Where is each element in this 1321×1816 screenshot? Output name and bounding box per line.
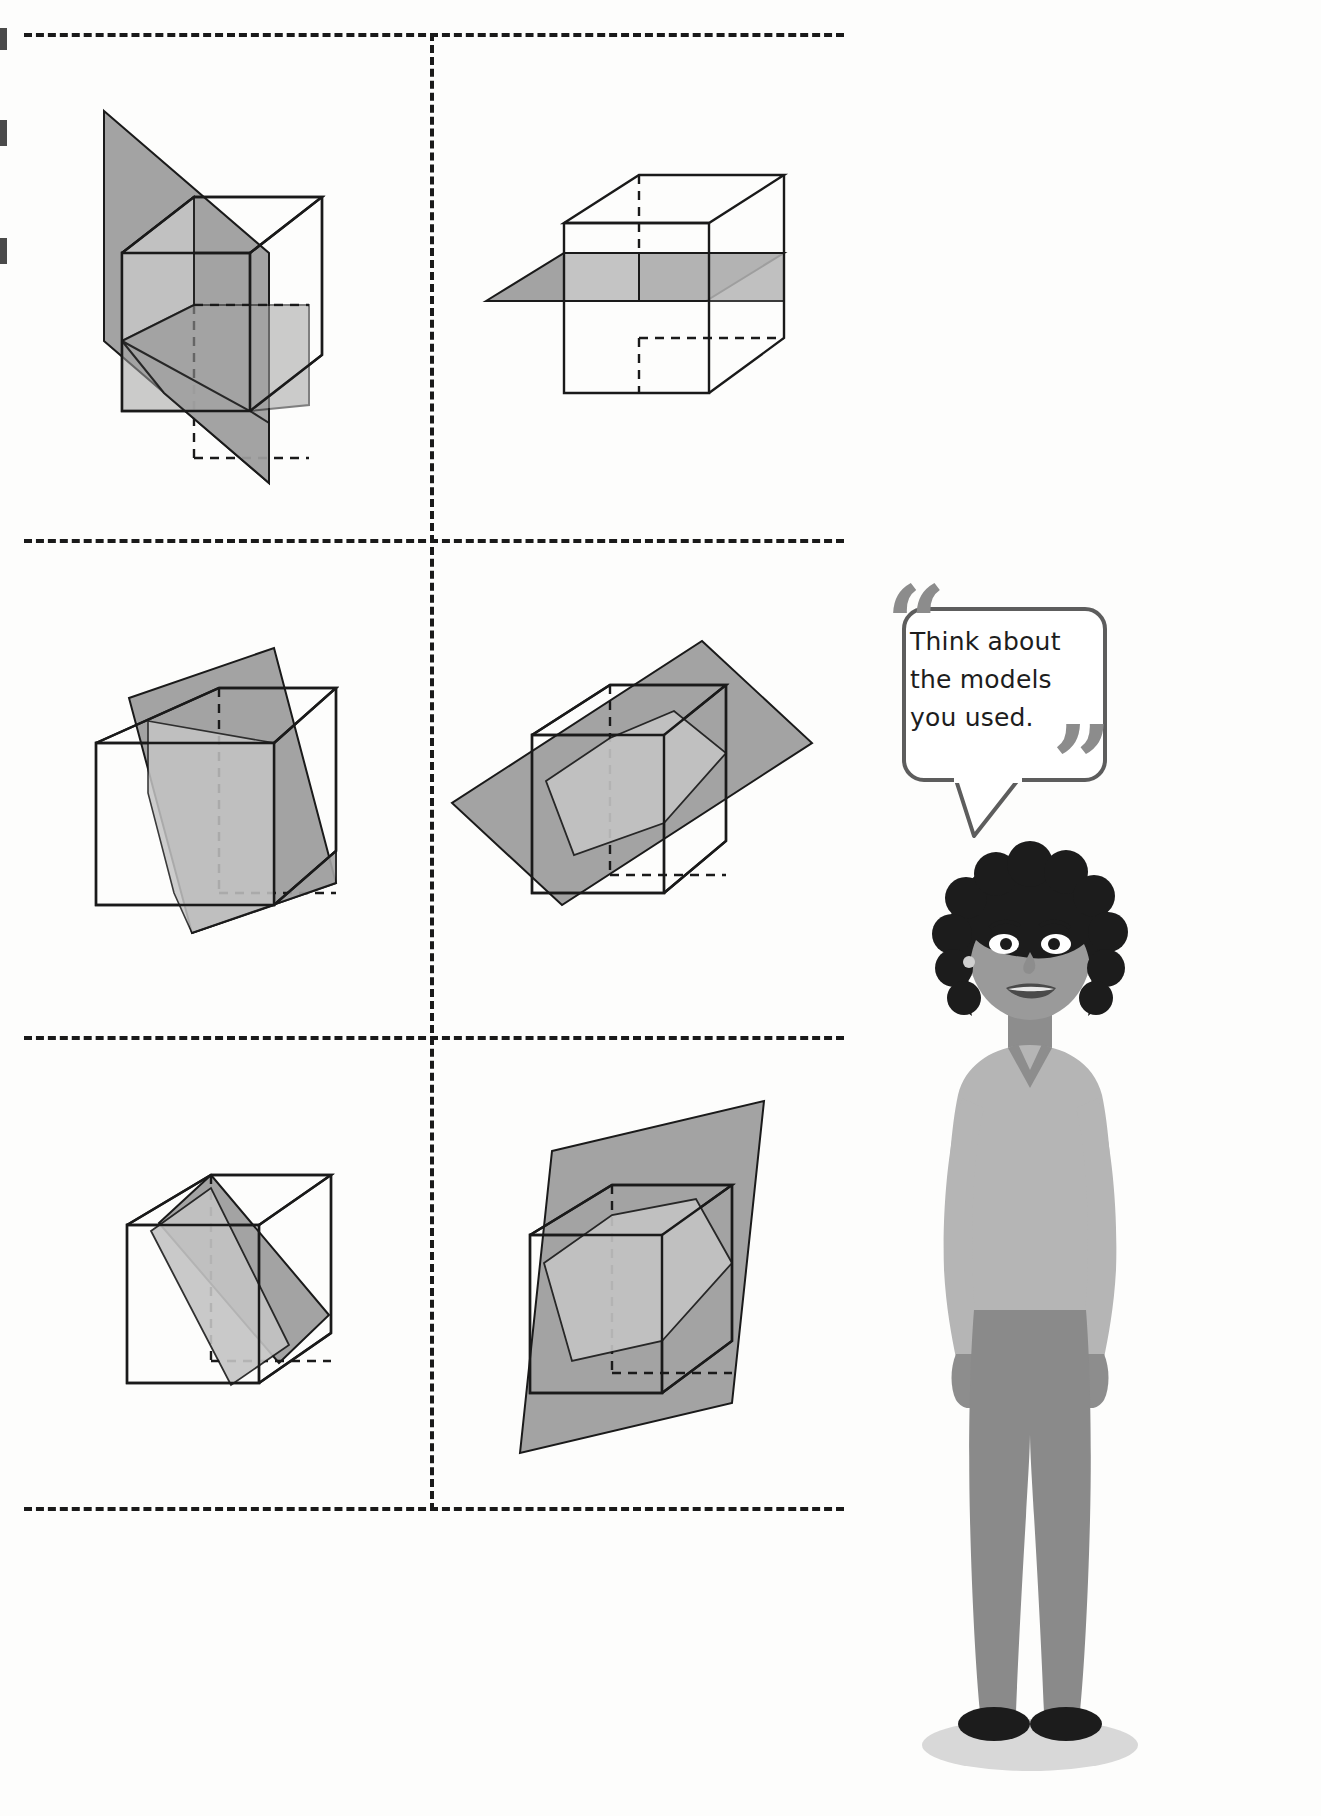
speech-bubble-line-3: you used. (910, 699, 1090, 737)
cell-cube-oblique-plane-hexagon (464, 1073, 824, 1473)
worksheet-page: “ ” Think about the models you used. (0, 0, 1321, 1816)
ground-shadow (922, 1719, 1138, 1771)
grid-border-top (24, 33, 844, 37)
cell-cube-oblique-plane-large (434, 593, 834, 993)
earring (963, 956, 975, 968)
grid-divider-row1 (24, 539, 844, 543)
worksheet-grid (24, 33, 844, 1511)
left-shoe (958, 1707, 1030, 1741)
speech-bubble: “ ” Think about the models you used. (880, 585, 1140, 835)
page-edge-mark-top (0, 28, 7, 50)
speech-bubble-line-1: Think about (910, 623, 1090, 661)
teacher-illustration (880, 840, 1180, 1790)
cell-cube-narrow-diagonal-band (79, 1093, 409, 1463)
page-edge-mark-middle (0, 120, 7, 146)
speech-bubble-line-2: the models (910, 661, 1090, 699)
page-edge-mark-lower (0, 238, 7, 264)
speech-bubble-tail (954, 778, 1024, 840)
grid-divider-row2 (24, 1036, 844, 1040)
trousers (969, 1310, 1091, 1712)
cell-cube-vertical-diagonal-plane (64, 93, 414, 493)
cell-cube-tilted-vertical-plane (74, 593, 424, 993)
cell-cube-horizontal-plane (464, 163, 814, 453)
grid-border-bottom (24, 1507, 844, 1511)
right-shoe (1030, 1707, 1102, 1741)
speech-bubble-text: Think about the models you used. (910, 623, 1090, 737)
